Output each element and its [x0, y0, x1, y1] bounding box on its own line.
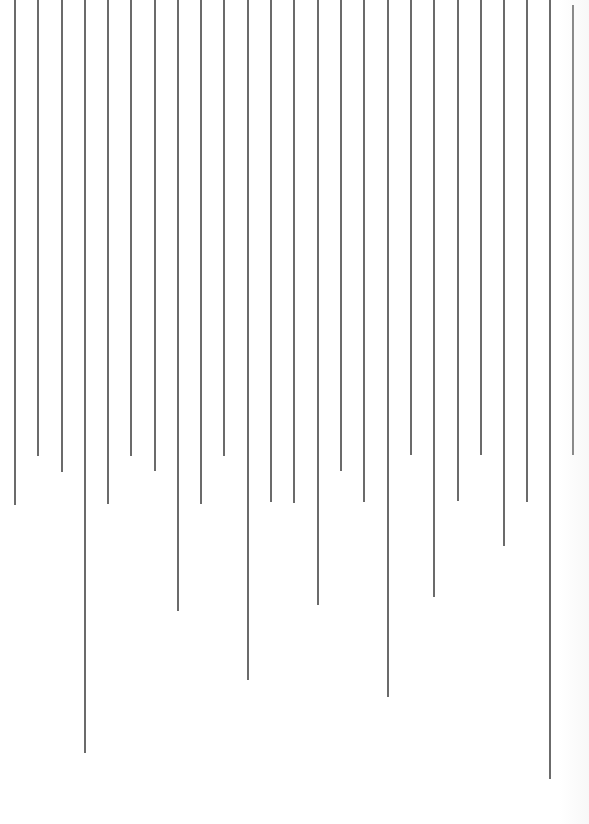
- vertical-line: [457, 0, 458, 501]
- vertical-line: [107, 0, 108, 504]
- vertical-line: [410, 0, 411, 455]
- vertical-line: [37, 0, 38, 456]
- vertical-line: [177, 0, 178, 611]
- line-artwork-canvas: [0, 0, 589, 824]
- vertical-line: [200, 0, 201, 504]
- vertical-line: [572, 5, 573, 455]
- vertical-line: [14, 0, 15, 505]
- vertical-line: [549, 0, 550, 779]
- vertical-line: [270, 0, 271, 502]
- vertical-line: [503, 0, 504, 546]
- vertical-line: [293, 0, 294, 503]
- vertical-line: [84, 0, 85, 753]
- vertical-line: [480, 0, 481, 455]
- vertical-line: [61, 0, 62, 472]
- vertical-line: [340, 0, 341, 471]
- vertical-line: [223, 0, 224, 456]
- vertical-line: [130, 0, 131, 456]
- vertical-line: [317, 0, 318, 605]
- vertical-line: [363, 0, 364, 502]
- vertical-line: [247, 0, 248, 680]
- vertical-line: [433, 0, 434, 597]
- vertical-line: [387, 0, 388, 697]
- vertical-line: [154, 0, 155, 471]
- vertical-line: [526, 0, 527, 502]
